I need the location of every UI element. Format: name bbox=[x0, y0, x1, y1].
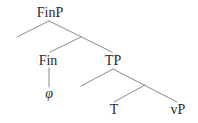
branch-finbar-fin bbox=[50, 37, 81, 52]
node-t: T bbox=[110, 103, 119, 117]
node-phi: φ bbox=[45, 87, 53, 101]
node-finp: FinP bbox=[37, 6, 63, 20]
tree-branches bbox=[0, 0, 198, 123]
node-fin: Fin bbox=[39, 54, 58, 68]
branch-finp-spec bbox=[17, 21, 49, 37]
node-vp: vP bbox=[171, 103, 186, 117]
node-tp: TP bbox=[105, 54, 121, 68]
branch-tbar-t bbox=[114, 85, 145, 102]
branch-finp-tp bbox=[49, 21, 112, 52]
syntax-tree: FinP Fin φ TP T vP bbox=[0, 0, 198, 123]
branch-tp-spec bbox=[81, 69, 113, 86]
